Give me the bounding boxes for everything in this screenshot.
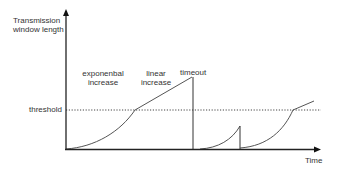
y-axis-label-line2: window length: [13, 25, 64, 34]
phase-exponential-label: exponenbal increase: [78, 69, 128, 87]
phase-linear-line2: increase: [138, 78, 174, 87]
curve-exponential-1: [66, 110, 135, 149]
phase-exponential-line1: exponenbal: [78, 69, 128, 78]
timeout-label: timeout: [180, 68, 206, 77]
x-axis-arrow-icon: [314, 147, 321, 153]
phase-linear-label: linear increase: [138, 69, 174, 87]
curve-exponential-2: [200, 126, 240, 149]
phase-linear-line1: linear: [138, 69, 174, 78]
y-axis-arrow-icon: [63, 9, 69, 16]
threshold-label: threshold: [29, 105, 62, 114]
phase-exponential-line2: increase: [78, 78, 128, 87]
y-axis-label: Transmission window length: [13, 16, 64, 34]
y-axis-label-line1: Transmission: [13, 16, 64, 25]
curve-linear-3: [293, 101, 314, 110]
x-axis-label: Time: [305, 156, 322, 165]
curve-exponential-3: [240, 110, 293, 148]
